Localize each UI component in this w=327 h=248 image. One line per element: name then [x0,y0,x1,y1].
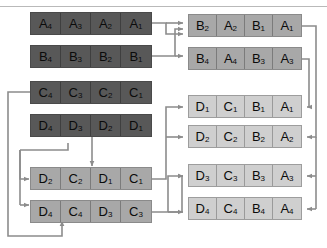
block-cell[interactable]: C4 [217,198,245,219]
block-row-right-2[interactable]: B4 A4 B3 A3 [188,47,302,70]
block-cell[interactable]: B3 [61,46,91,67]
block-cell[interactable]: C2 [61,168,91,189]
block-cell[interactable]: C1 [121,168,151,189]
block-cell[interactable]: D4 [31,115,61,136]
block-cell[interactable]: C3 [61,82,91,103]
block-cell[interactable]: B2 [245,126,273,147]
wire-left6-riser [168,176,183,212]
block-cell[interactable]: A3 [61,13,91,34]
diagram-canvas: A4 A3 A2 A1 B4 B3 B2 B1 C4 C3 C2 C1 D4 D… [0,0,327,248]
block-cell[interactable]: B1 [245,96,273,117]
block-row-right-1[interactable]: B2 A2 B1 A1 [188,14,302,37]
wire-inner-loop-top [20,143,68,150]
block-cell[interactable]: C3 [121,201,151,222]
block-cell[interactable]: B4 [245,198,273,219]
block-cell[interactable]: B2 [91,46,121,67]
block-cell[interactable]: D4 [31,201,61,222]
block-row-left-5[interactable]: D2 C2 D1 C1 [30,167,152,190]
block-cell[interactable]: B1 [245,15,273,36]
wire-left5-to-right-row3 [152,107,183,179]
wire-inner-loop-to-left5 [20,150,29,179]
block-cell[interactable]: A3 [273,165,301,186]
block-cell[interactable]: D2 [189,126,217,147]
block-cell[interactable]: C3 [217,165,245,186]
wire-right2-feedback-to-row3 [302,59,309,107]
block-cell[interactable]: B3 [245,48,273,69]
block-cell[interactable]: A2 [91,13,121,34]
block-cell[interactable]: D1 [121,115,151,136]
block-cell[interactable]: D3 [91,201,121,222]
block-cell[interactable]: A4 [217,48,245,69]
block-row-right-4[interactable]: D2 C2 B2 A2 [188,125,302,148]
block-cell[interactable]: C2 [217,126,245,147]
block-cell[interactable]: A2 [273,126,301,147]
block-row-left-1[interactable]: A4 A3 A2 A1 [30,12,152,35]
block-cell[interactable]: B2 [189,15,217,36]
block-cell[interactable]: A3 [273,48,301,69]
block-cell[interactable]: D4 [189,198,217,219]
block-row-left-4[interactable]: D4 D3 D2 D1 [30,114,152,137]
block-cell[interactable]: A1 [121,13,151,34]
block-cell[interactable]: A1 [273,96,301,117]
block-cell[interactable]: B3 [245,165,273,186]
block-row-left-6[interactable]: D4 C4 D3 C3 [30,200,152,223]
block-cell[interactable]: B1 [121,46,151,67]
block-row-left-2[interactable]: B4 B3 B2 B1 [30,45,152,68]
block-cell[interactable]: B4 [31,46,61,67]
wire-b-to-right-row1-lower [152,29,183,56]
block-cell[interactable]: C2 [91,82,121,103]
block-row-left-3[interactable]: C4 C3 C2 C1 [30,81,152,104]
block-row-right-5[interactable]: D3 C3 B3 A3 [188,164,302,187]
block-cell[interactable]: D1 [91,168,121,189]
block-cell[interactable]: B4 [189,48,217,69]
block-cell[interactable]: C1 [121,82,151,103]
block-cell[interactable]: D3 [61,115,91,136]
block-cell[interactable]: A1 [273,15,301,36]
block-cell[interactable]: D3 [189,165,217,186]
block-cell[interactable]: D1 [189,96,217,117]
block-cell[interactable]: A2 [217,15,245,36]
block-cell[interactable]: D2 [91,115,121,136]
block-cell[interactable]: A4 [273,198,301,219]
block-row-right-3[interactable]: D1 C1 B1 A1 [188,95,302,118]
block-cell[interactable]: A4 [31,13,61,34]
block-cell[interactable]: C4 [61,201,91,222]
block-row-right-6[interactable]: D4 C4 B4 A4 [188,197,302,220]
block-cell[interactable]: D2 [31,168,61,189]
block-cell[interactable]: C1 [217,96,245,117]
block-cell[interactable]: C4 [31,82,61,103]
